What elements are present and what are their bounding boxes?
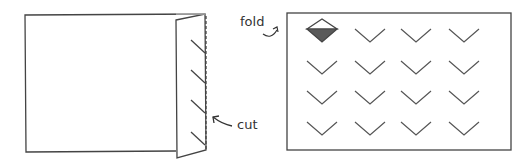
cut-label: cut [237,117,257,132]
folded-diamond-icon [307,19,337,42]
v-cut-grid [307,29,479,135]
fold-label: fold [240,14,264,29]
fold-arrow-icon [263,27,278,36]
cut-arrow-icon [213,116,232,126]
folded-paper [25,14,206,158]
